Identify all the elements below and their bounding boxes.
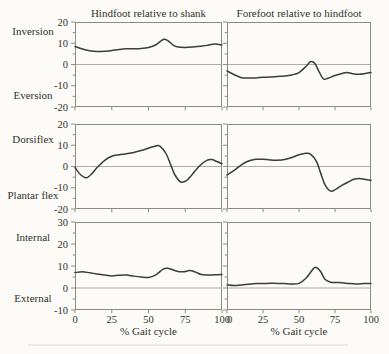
x-tick-label: 25 [107, 314, 118, 325]
y-tick-label: 10 [58, 38, 69, 49]
forefoot-inversion-eversion-plot [227, 22, 371, 107]
scan-artifact-line [28, 344, 348, 346]
x-tick-label: 75 [330, 314, 341, 325]
row-label-dorsiflex: Dorsiflex [0, 133, 66, 145]
forefoot-internal-external-plot: 0255075100 [227, 222, 371, 310]
y-tick-label: 20 [58, 17, 69, 28]
x-axis-title-left: % Gait cycle [75, 325, 222, 337]
x-tick-label: 0 [227, 314, 232, 325]
x-tick-label: 100 [363, 314, 379, 325]
forefoot-dorsiflex-plantarflex-plot [227, 124, 371, 209]
y-tick-label: -20 [54, 204, 68, 215]
y-tick-label: 0 [63, 283, 68, 294]
x-tick-label: 0 [72, 314, 77, 325]
y-tick-label: 10 [58, 261, 69, 272]
x-tick-label: 25 [258, 314, 269, 325]
y-tick-label: 0 [63, 161, 68, 172]
forefoot-dorsiflex-plantarflex-series-line [227, 153, 371, 191]
row-label-external: External [0, 292, 66, 304]
hindfoot-dorsiflex-plantarflex-series-line [75, 145, 222, 182]
y-tick-label: 20 [58, 119, 69, 130]
hindfoot-inversion-eversion-series-line [75, 39, 222, 51]
column-title-forefoot: Forefoot relative to hindfoot [227, 7, 371, 19]
y-tick-label: 20 [58, 239, 69, 250]
hindfoot-internal-external-series-line [75, 268, 222, 277]
y-tick-label: -10 [54, 182, 68, 193]
hindfoot-inversion-eversion-plot: -20-1001020 [75, 22, 222, 107]
x-tick-label: 50 [294, 314, 305, 325]
y-tick-label: 30 [58, 217, 69, 228]
row-label-inversion: Inversion [0, 25, 66, 37]
column-title-hindfoot: Hindfoot relative to shank [75, 7, 222, 19]
y-tick-label: -10 [54, 305, 68, 316]
y-tick-label: -10 [54, 80, 68, 91]
hindfoot-dorsiflex-plantarflex-plot: -20-1001020 [75, 124, 222, 209]
x-tick-label: 75 [180, 314, 191, 325]
row-label-internal: Internal [0, 231, 66, 243]
axis-frame [228, 223, 371, 310]
gait-kinematics-figure: Hindfoot relative to shank Forefoot rela… [0, 0, 389, 354]
y-tick-label: 0 [63, 59, 68, 70]
axis-frame [76, 223, 222, 310]
forefoot-internal-external-series-line [227, 267, 371, 285]
x-axis-title-right: % Gait cycle [227, 325, 371, 337]
y-tick-label: -20 [54, 102, 68, 113]
y-tick-label: 10 [58, 140, 69, 151]
hindfoot-internal-external-plot: -1001020300255075100 [75, 222, 222, 310]
x-tick-label: 50 [143, 314, 154, 325]
